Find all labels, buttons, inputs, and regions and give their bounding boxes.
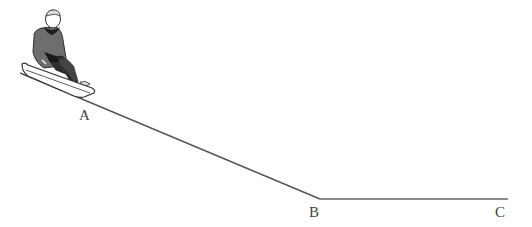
point-label-b: B (309, 204, 319, 221)
point-label-c: C (495, 204, 505, 221)
point-label-a: A (79, 107, 90, 124)
sled-rider-icon (22, 10, 95, 97)
